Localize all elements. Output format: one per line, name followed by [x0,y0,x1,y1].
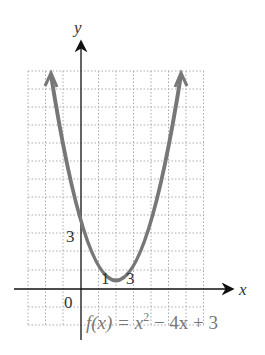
y-axis-label: y [72,18,82,37]
x-axis-label: x [238,280,247,299]
origin-label: 0 [64,293,73,312]
x-tick-1-label: 1 [101,269,110,288]
grid [28,71,204,325]
parabola-chart: y x 0 3 1 3 f(x) = x2 − 4x + 3 [0,0,265,355]
function-equation: f(x) = x2 − 4x + 3 [86,310,218,334]
y-tick-3-label: 3 [66,227,75,246]
x-tick-3-label: 3 [126,269,135,288]
